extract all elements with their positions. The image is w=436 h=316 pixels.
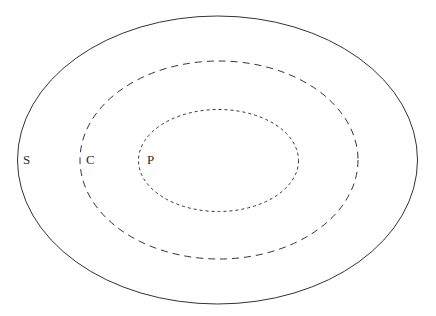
label-inner-set-p: P [147, 152, 154, 167]
middle-ellipse-c [80, 61, 358, 259]
inner-ellipse-p [139, 110, 299, 212]
nested-ellipses-svg: S C P [0, 0, 436, 316]
label-middle-set-c: C [86, 152, 95, 167]
label-outer-set-s: S [23, 152, 30, 167]
set-diagram-canvas: S C P [0, 0, 436, 316]
